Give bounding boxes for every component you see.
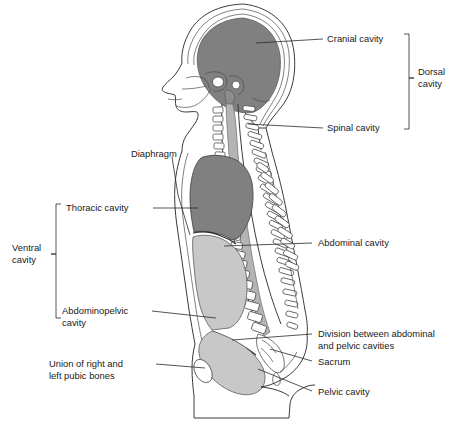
vertebra-c3 <box>213 125 223 131</box>
label-pelvic-cavity: Pelvic cavity <box>318 386 370 397</box>
vertebra-c1 <box>213 107 223 113</box>
label-abdominopelvic-line2: cavity <box>62 317 86 328</box>
label-cranial-cavity: Cranial cavity <box>327 33 384 44</box>
figure-canvas: Cranial cavity Dorsal cavity Spinal cavi… <box>0 0 456 429</box>
label-abdominopelvic-line1: Abdominopelvic <box>62 305 128 316</box>
label-division-line2: and pelvic cavities <box>318 340 394 351</box>
label-dorsal-cavity-line1: Dorsal <box>418 66 445 77</box>
label-abdominal-cavity: Abdominal cavity <box>318 237 389 248</box>
label-pubic-union-line1: Union of right and <box>49 358 123 369</box>
label-ventral-cavity-line2: cavity <box>12 254 36 265</box>
inner-ear <box>232 81 240 89</box>
label-thoracic-cavity: Thoracic cavity <box>66 202 129 213</box>
label-pubic-union-line2: left pubic bones <box>49 370 115 381</box>
label-sacrum: Sacrum <box>318 356 350 367</box>
sella-turcica <box>213 77 224 87</box>
label-diaphragm: Diaphragm <box>131 148 177 159</box>
label-division-line1: Division between abdominal <box>318 328 435 339</box>
label-dorsal-cavity-line2: cavity <box>418 78 442 89</box>
spinous-process-1 <box>243 105 255 111</box>
vertebra-c2 <box>213 116 223 122</box>
label-spinal-cavity: Spinal cavity <box>327 122 380 133</box>
body-cavities-diagram: Cranial cavity Dorsal cavity Spinal cavi… <box>0 0 456 429</box>
label-ventral-cavity-line1: Ventral <box>12 242 41 253</box>
vertebra-c4 <box>213 134 223 140</box>
thoracic-cavity-region <box>190 155 253 240</box>
vertebra-c5 <box>214 143 224 149</box>
